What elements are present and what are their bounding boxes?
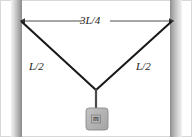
figure-canvas: 3L/4 L/2 L/2 m bbox=[0, 0, 192, 137]
cord-right bbox=[96, 22, 171, 90]
cord-left-label: L/2 bbox=[28, 60, 44, 72]
wall-left bbox=[11, 0, 22, 137]
cord-left bbox=[22, 22, 96, 90]
cord-right-label: L/2 bbox=[135, 60, 151, 72]
span-label: 3L/4 bbox=[79, 14, 101, 26]
wall-right bbox=[170, 0, 182, 137]
mass-label: m bbox=[93, 114, 99, 123]
physics-figure: 3L/4 L/2 L/2 m bbox=[0, 0, 192, 137]
